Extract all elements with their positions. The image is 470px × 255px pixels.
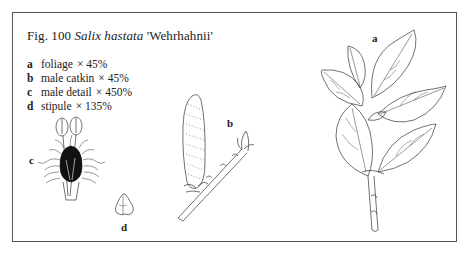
- male-catkin-icon: [178, 95, 254, 221]
- foliage-branch-icon: [321, 30, 446, 232]
- stipule-icon: [116, 194, 134, 215]
- male-flower-detail-icon: [38, 117, 105, 200]
